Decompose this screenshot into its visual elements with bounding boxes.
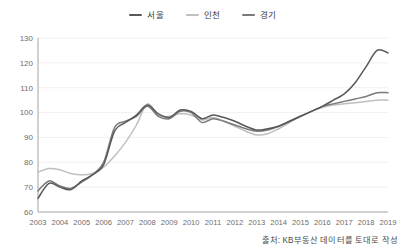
svg-text:2004: 2004 <box>51 218 68 227</box>
svg-text:2017: 2017 <box>336 218 353 227</box>
svg-text:2013: 2013 <box>248 218 265 227</box>
svg-text:90: 90 <box>24 133 33 142</box>
svg-text:2012: 2012 <box>226 218 243 227</box>
svg-text:60: 60 <box>24 208 33 217</box>
price-index-line-chart: 서울 인천 경기 60708090100110120130 2003200420… <box>0 0 406 252</box>
y-tick-labels: 60708090100110120130 <box>20 34 34 217</box>
svg-text:2008: 2008 <box>139 218 156 227</box>
x-tick-labels: 2003200420052006200720082009201020112012… <box>30 218 397 227</box>
svg-text:2016: 2016 <box>314 218 331 227</box>
source-caption: 출처: KB부동산 데이터를 토대로 작성 <box>262 233 398 245</box>
svg-text:110: 110 <box>20 84 33 93</box>
svg-text:2019: 2019 <box>380 218 397 227</box>
svg-text:120: 120 <box>20 59 34 68</box>
svg-text:2009: 2009 <box>161 218 178 227</box>
svg-text:2018: 2018 <box>358 218 375 227</box>
plot-area: 60708090100110120130 2003200420052006200… <box>0 0 406 252</box>
svg-text:100: 100 <box>20 108 34 117</box>
svg-text:2015: 2015 <box>292 218 309 227</box>
svg-text:70: 70 <box>24 183 33 192</box>
svg-text:2005: 2005 <box>73 218 90 227</box>
svg-text:2011: 2011 <box>205 218 221 227</box>
svg-text:2014: 2014 <box>270 218 287 227</box>
svg-text:130: 130 <box>20 34 34 43</box>
gridlines <box>38 38 388 187</box>
svg-text:80: 80 <box>24 158 33 167</box>
svg-text:2007: 2007 <box>117 218 134 227</box>
svg-text:2010: 2010 <box>183 218 200 227</box>
data-series <box>38 50 388 199</box>
svg-text:2006: 2006 <box>95 218 112 227</box>
svg-text:2003: 2003 <box>30 218 47 227</box>
